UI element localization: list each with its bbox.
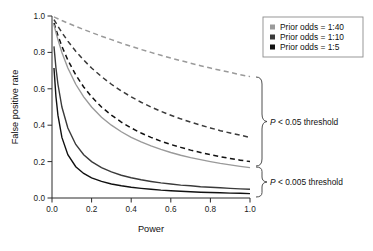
x-tick-label-0: 0.0 bbox=[46, 205, 58, 214]
legend-label-2: Prior odds = 1:5 bbox=[280, 42, 340, 52]
annotation-lower-rest: < 0.005 threshold bbox=[276, 177, 344, 187]
legend-label-1: Prior odds = 1:10 bbox=[280, 32, 344, 42]
brace-upper bbox=[256, 77, 267, 166]
y-axis-title: False positive rate bbox=[10, 70, 20, 145]
annotation-lower: P < 0.005 threshold bbox=[270, 177, 343, 187]
chart-figure: 0.0 0.2 0.4 0.6 0.8 1.0 0.0 0.2 0.4 0.6 … bbox=[0, 0, 373, 251]
series-line-3 bbox=[54, 25, 250, 168]
data-series-group bbox=[54, 17, 250, 194]
series-line-4 bbox=[54, 46, 250, 189]
y-tick-label-1: 0.2 bbox=[34, 158, 46, 167]
y-axis-ticks bbox=[48, 16, 53, 198]
y-tick-label-4: 0.8 bbox=[34, 48, 46, 57]
legend-swatch-2 bbox=[270, 45, 275, 50]
x-tick-label-1: 0.2 bbox=[86, 205, 98, 214]
brace-lower bbox=[256, 167, 267, 197]
legend-swatch-1 bbox=[270, 35, 275, 40]
series-line-1 bbox=[54, 20, 250, 138]
series-line-0 bbox=[54, 17, 250, 77]
x-axis-title: Power bbox=[138, 224, 164, 234]
x-axis-ticks bbox=[52, 198, 250, 203]
legend-label-0: Prior odds = 1:40 bbox=[280, 22, 344, 32]
y-tick-label-0: 0.0 bbox=[34, 194, 46, 203]
x-tick-label-5: 1.0 bbox=[244, 205, 256, 214]
series-line-2 bbox=[54, 23, 250, 162]
x-tick-label-4: 0.8 bbox=[205, 205, 217, 214]
annotation-upper: P < 0.05 threshold bbox=[270, 117, 339, 127]
legend: Prior odds = 1:40 Prior odds = 1:10 Prio… bbox=[263, 17, 363, 57]
x-tick-label-2: 0.4 bbox=[126, 205, 138, 214]
y-tick-label-2: 0.4 bbox=[34, 121, 46, 130]
y-tick-label-5: 1.0 bbox=[34, 12, 46, 21]
legend-swatch-0 bbox=[270, 25, 275, 30]
annotation-upper-rest: < 0.05 threshold bbox=[276, 117, 339, 127]
x-tick-label-3: 0.6 bbox=[165, 205, 177, 214]
chart-canvas: 0.0 0.2 0.4 0.6 0.8 1.0 0.0 0.2 0.4 0.6 … bbox=[0, 0, 373, 251]
y-tick-label-3: 0.6 bbox=[34, 85, 46, 94]
